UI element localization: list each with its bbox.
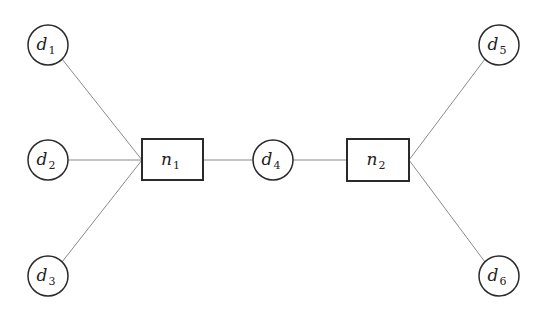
edge-d1-n1 bbox=[62, 59, 142, 160]
network-diagram: d1d2d3n1d4n2d5d6 bbox=[0, 0, 548, 317]
node-n2: n2 bbox=[347, 139, 409, 181]
node-d6: d6 bbox=[479, 256, 519, 296]
edge-n2-d6 bbox=[409, 160, 485, 262]
edge-d3-n1 bbox=[62, 160, 142, 262]
node-d3: d3 bbox=[28, 256, 68, 296]
edge-n2-d5 bbox=[409, 59, 485, 160]
node-d5: d5 bbox=[479, 25, 519, 65]
node-d2: d2 bbox=[28, 140, 68, 180]
node-d4: d4 bbox=[253, 140, 293, 180]
node-n1: n1 bbox=[142, 139, 203, 180]
node-d1: d1 bbox=[28, 25, 68, 65]
